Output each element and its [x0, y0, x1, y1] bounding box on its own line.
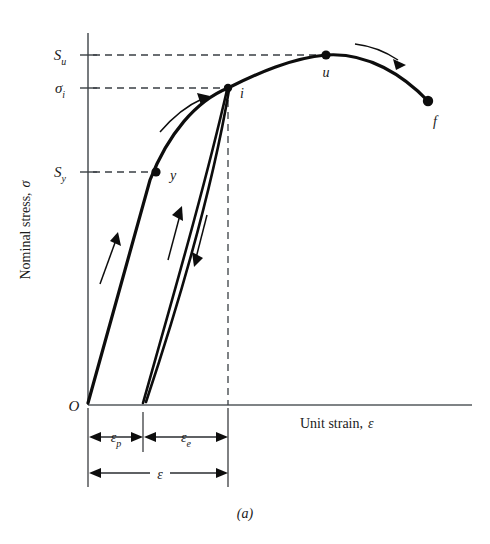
point-label-u: u: [323, 65, 330, 80]
dim-arrow-total-right: [216, 468, 228, 478]
marker-interrupt-point: [224, 84, 232, 92]
marker-ultimate-point: [321, 50, 330, 59]
dim-arrow-elastic-right: [216, 432, 228, 442]
dimension-plastic-strain: εp: [89, 430, 143, 449]
marker-yield-point: [151, 167, 160, 176]
origin-label: O: [69, 398, 80, 414]
dim-label-total-strain: ε: [157, 467, 163, 482]
projection-lines: [93, 55, 326, 405]
figure-caption: (a): [237, 506, 254, 522]
loading-arrow-elastic-icon: [100, 232, 121, 284]
point-label-f: f: [433, 114, 439, 129]
dim-arrow-total-left: [89, 468, 101, 478]
loading-arrow-plastic-icon: [160, 93, 210, 132]
x-axis-title: Unit strain,ε: [300, 416, 374, 431]
y-tick-labels: Su σi Sy: [54, 47, 67, 184]
label-interrupt-stress: σi: [55, 80, 65, 100]
point-label-y: y: [168, 168, 177, 183]
point-markers: [151, 50, 433, 176]
reloading-line: [143, 90, 227, 403]
dimension-total-strain: ε: [89, 462, 228, 482]
y-axis-title: Nominal stress,σ: [18, 179, 33, 279]
reload-arrow-icon: [168, 206, 183, 260]
marker-fracture-point: [423, 96, 433, 106]
stress-strain-figure: Su σi Sy y i u f O Unit strain,ε Nominal…: [0, 0, 490, 544]
label-yield-strength: Sy: [54, 164, 67, 184]
direction-arrows: [100, 44, 406, 284]
label-ultimate-strength: Su: [54, 47, 67, 67]
dim-arrow-elastic-left: [144, 432, 156, 442]
dim-arrow-plastic-left: [89, 432, 101, 442]
loading-curve-to-interrupt: [88, 88, 228, 403]
curve-group: [88, 55, 428, 403]
stress-strain-diagram: Su σi Sy y i u f O Unit strain,ε Nominal…: [0, 0, 490, 544]
dim-arrow-plastic-right: [131, 432, 143, 442]
point-label-i: i: [240, 86, 244, 101]
dim-label-plastic-strain: εp: [111, 430, 122, 449]
dim-label-elastic-strain: εe: [181, 430, 192, 449]
dimension-elastic-strain: εe: [144, 430, 228, 449]
